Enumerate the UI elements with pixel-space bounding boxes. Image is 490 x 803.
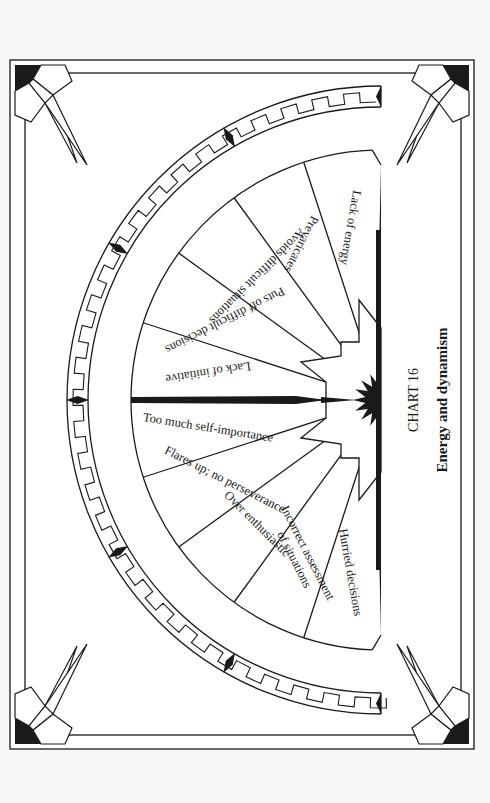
chart-diagram: Lack of energyPrevaricatesAvoids difficu… (0, 0, 490, 803)
chart-caption: CHART 16 (406, 368, 421, 432)
chart-number: CHART 16 (406, 368, 421, 432)
page-paper (10, 60, 474, 749)
chart-title: Energy and dynamism (434, 327, 450, 473)
chart-title-group: Energy and dynamism (434, 327, 450, 473)
